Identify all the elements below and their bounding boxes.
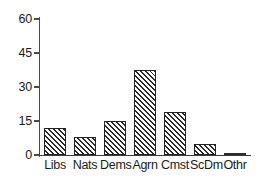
bar-othr [224, 153, 246, 155]
bar-slot [74, 19, 96, 155]
x-tick-label-dems: Dems [100, 159, 130, 172]
x-tick-label-agrn: Agrn [130, 159, 160, 172]
x-tick-label-nats: Nats [70, 159, 100, 172]
bars-layer [40, 19, 250, 155]
bar-slot [224, 19, 246, 155]
bar-dems [104, 121, 126, 155]
bar-slot [134, 19, 156, 155]
bar-scdm [194, 144, 216, 155]
y-tick-mark [34, 52, 39, 53]
y-tick-label: 45 [0, 47, 32, 60]
bar-nats [74, 137, 96, 155]
y-tick-label: 30 [0, 81, 32, 94]
y-tick-mark [34, 86, 39, 87]
x-tick-label-libs: Libs [40, 159, 70, 172]
bar-cmst [164, 112, 186, 155]
y-tick-mark [34, 120, 39, 121]
bar-slot [194, 19, 216, 155]
y-tick-mark [34, 154, 39, 155]
x-tick-label-othr: Othr [220, 159, 250, 172]
bar-agrn [134, 70, 156, 155]
plot-area [40, 19, 250, 155]
y-tick-label: 0 [0, 149, 32, 162]
y-tick-label: 15 [0, 115, 32, 128]
bar-slot [104, 19, 126, 155]
x-tick-label-cmst: Cmst [160, 159, 190, 172]
bar-slot [44, 19, 66, 155]
y-tick-mark [34, 18, 39, 19]
bar-slot [164, 19, 186, 155]
y-tick-label: 60 [0, 13, 32, 26]
bar-libs [44, 128, 66, 155]
x-tick-label-scdm: ScDm [190, 159, 220, 172]
bar-chart: 015304560 LibsNatsDemsAgrnCmstScDmOthr [0, 0, 265, 180]
